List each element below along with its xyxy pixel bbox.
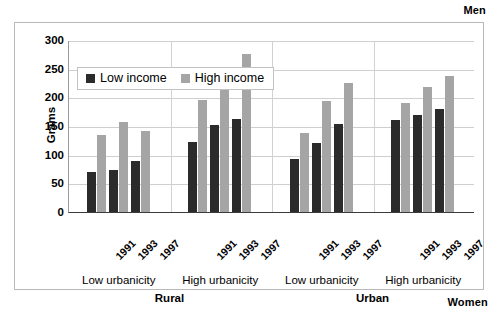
- bar-low-income: [391, 120, 400, 212]
- bar-group: [312, 41, 334, 212]
- x-axis-tick-label: 1993: [439, 237, 464, 262]
- x-axis-year-labels: 1991199319971991199319971991199319971991…: [68, 235, 474, 265]
- x-axis-tick-label: 1997: [258, 237, 283, 262]
- bar-high-income: [322, 101, 331, 212]
- chart-figure: Men Grams 050100150200250300 Low income …: [0, 0, 500, 311]
- x-axis-block-labels: RuralUrban: [68, 292, 474, 308]
- bar-high-income: [141, 131, 150, 212]
- bar-low-income: [435, 109, 444, 212]
- x-axis-group-label: Low urbanicity: [82, 274, 156, 286]
- bar-high-income: [220, 85, 229, 212]
- bar-low-income: [232, 119, 241, 212]
- y-axis-tick-label: 100: [45, 150, 64, 162]
- bar-low-income: [210, 125, 219, 212]
- x-axis-group-label: Low urbanicity: [285, 274, 359, 286]
- x-axis-tick-label: 1993: [236, 237, 261, 262]
- bar-low-income: [334, 124, 343, 212]
- y-axis-tick-label: 250: [45, 64, 64, 76]
- x-axis-group-label: High urbanicity: [182, 274, 258, 286]
- x-axis-group-labels: Low urbanicityHigh urbanicityLow urbanic…: [68, 274, 474, 290]
- group-separator: [374, 41, 375, 212]
- bar-group: [334, 41, 356, 212]
- legend-swatch-high-income: [181, 74, 190, 83]
- y-axis-tick-label: 150: [45, 121, 64, 133]
- legend-item-low-income: Low income: [86, 71, 167, 85]
- bar-low-income: [131, 161, 140, 212]
- x-axis-block-label: Urban: [356, 292, 389, 304]
- bar-low-income: [188, 142, 197, 212]
- bar-group: [413, 41, 435, 212]
- bar-low-income: [87, 172, 96, 212]
- bar-group: [290, 41, 312, 212]
- x-axis-tick-label: 1997: [157, 237, 182, 262]
- x-axis-tick-label: 1997: [360, 237, 385, 262]
- bar-low-income: [413, 115, 422, 212]
- chart-plot-frame: Grams 050100150200250300 Low income High…: [14, 22, 484, 290]
- x-axis-tick-label: 1991: [316, 237, 341, 262]
- bar-high-income: [119, 122, 128, 212]
- x-axis-block-label: Rural: [155, 292, 184, 304]
- bar-high-income: [445, 76, 454, 212]
- bar-low-income: [290, 159, 299, 212]
- men-label: Men: [463, 4, 486, 16]
- chart-legend: Low income High income: [77, 67, 274, 90]
- x-axis-tick-label: 1991: [214, 237, 239, 262]
- y-axis-tick-label: 50: [51, 179, 64, 191]
- bar-high-income: [401, 103, 410, 213]
- legend-label-low-income: Low income: [100, 71, 167, 85]
- bar-high-income: [344, 83, 353, 212]
- y-axis-tick-label: 300: [45, 35, 64, 47]
- y-axis-tick-label: 0: [58, 207, 64, 219]
- legend-label-high-income: High income: [195, 71, 264, 85]
- x-axis-group-label: High urbanicity: [385, 274, 461, 286]
- bar-high-income: [423, 87, 432, 212]
- legend-swatch-low-income: [86, 74, 95, 83]
- bar-high-income: [300, 133, 309, 212]
- y-axis-tick-label: 200: [45, 93, 64, 105]
- x-axis-tick-label: 1991: [113, 237, 138, 262]
- women-label: Women: [447, 296, 488, 308]
- x-axis-tick-label: 1991: [417, 237, 442, 262]
- bar-high-income: [97, 135, 106, 212]
- bar-group: [391, 41, 413, 212]
- bar-low-income: [109, 170, 118, 212]
- bar-group: [435, 41, 457, 212]
- x-axis-tick-label: 1993: [338, 237, 363, 262]
- bar-high-income: [198, 100, 207, 212]
- bar-low-income: [312, 143, 321, 212]
- legend-item-high-income: High income: [181, 71, 264, 85]
- x-axis-tick-label: 1997: [461, 237, 486, 262]
- x-axis-tick-label: 1993: [135, 237, 160, 262]
